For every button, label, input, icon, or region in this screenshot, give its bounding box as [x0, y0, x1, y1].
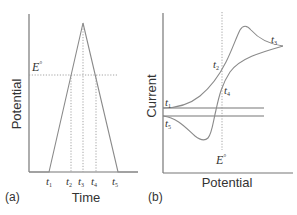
panel-b-t1-label: t1 [165, 96, 171, 109]
panel-a: E° Potential Time (a) t1 t2 t3 t4 t5 [5, 14, 138, 205]
potential-waveform [29, 23, 138, 172]
forward-scan-curve [163, 26, 283, 108]
panel-b-t4-label: t4 [224, 84, 230, 97]
panel-b-tag: (b) [148, 190, 163, 204]
panel-b-t3-label: t3 [271, 33, 277, 46]
cyclic-voltammetry-diagram: E° Potential Time (a) t1 t2 t3 t4 t5 t1 … [0, 0, 297, 215]
t2-label: t2 [66, 175, 72, 188]
panel-a-y-label: Potential [9, 79, 24, 130]
panel-b-t5-label: t5 [165, 117, 171, 130]
panel-b-t2-label: t2 [213, 58, 219, 71]
panel-b: t1 t2 t3 t4 t5 E° Current Potential (b) [144, 12, 293, 204]
panel-b-y-label: Current [144, 74, 159, 118]
t3-label: t3 [78, 175, 84, 188]
reverse-scan-curve [163, 46, 283, 140]
panel-b-x-label: Potential [202, 175, 253, 190]
panel-a-e0-label: E° [31, 60, 42, 74]
panel-a-x-label: Time [72, 190, 100, 205]
t5-label: t5 [112, 175, 118, 188]
t1-label: t1 [46, 175, 52, 188]
panel-a-tag: (a) [5, 190, 20, 204]
panel-b-e0-label: E° [215, 153, 226, 167]
t4-label: t4 [91, 175, 97, 188]
